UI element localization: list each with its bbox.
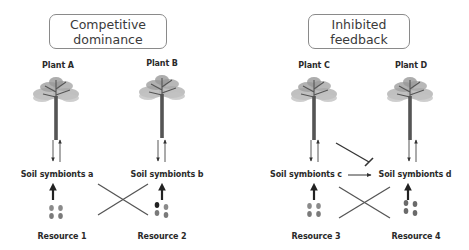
title-box-competitive-dominance: Competitive dominance	[49, 14, 167, 49]
resource-3-label: Resource 3	[291, 232, 340, 241]
resource-uptake-arrows	[53, 186, 408, 200]
plant-d-tree-icon	[387, 77, 433, 140]
plant-a-tree-icon	[33, 77, 79, 140]
plant-c-label: Plant C	[298, 61, 329, 70]
plant-d-label: Plant D	[395, 61, 427, 70]
title-line-1: Inhibited	[332, 17, 387, 32]
soil-symbionts-a-label: Soil symbionts a	[21, 170, 94, 179]
soil-symbionts-d-label: Soil symbionts d	[379, 170, 452, 179]
resource-4-dots-icon	[404, 200, 418, 216]
plant-c-tree-icon	[291, 77, 337, 140]
title-line-2: feedback	[330, 32, 387, 47]
cross-resource-lines-panel-2	[339, 187, 390, 218]
title-line-1: Competitive	[70, 17, 146, 32]
resource-1-dots-icon	[49, 205, 63, 219]
plant-b-label: Plant B	[146, 59, 178, 68]
plant-a-label: Plant A	[42, 61, 74, 70]
soil-symbionts-b-label: Soil symbionts b	[131, 170, 204, 179]
title-box-inhibited-feedback: Inhibited feedback	[308, 14, 410, 49]
resource-3-dots-icon	[307, 203, 321, 217]
soil-symbionts-c-label: Soil symbionts c	[270, 170, 342, 179]
plant-b-tree-icon	[139, 75, 185, 138]
plant-symbiont-feedback-arrows	[53, 140, 416, 162]
resource-4-label: Resource 4	[391, 232, 440, 241]
resource-2-dots-icon	[155, 202, 169, 218]
resource-2-label: Resource 2	[137, 232, 186, 241]
resource-1-label: Resource 1	[37, 232, 86, 241]
inhibition-arrow	[336, 143, 373, 166]
cross-resource-lines-panel-1	[98, 184, 148, 215]
title-line-2: dominance	[73, 32, 142, 47]
